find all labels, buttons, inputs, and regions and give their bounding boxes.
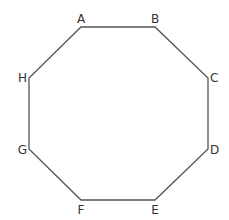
- vertex-label-e: E: [151, 203, 159, 217]
- octagon-diagram: A B C D E F G H: [0, 0, 229, 220]
- vertex-label-a: A: [77, 12, 86, 26]
- vertex-label-g: G: [18, 143, 27, 157]
- octagon-shape: [29, 27, 208, 200]
- vertex-label-d: D: [210, 143, 219, 157]
- vertex-label-h: H: [18, 71, 27, 85]
- vertex-label-f: F: [78, 203, 85, 217]
- vertex-label-c: C: [210, 71, 218, 85]
- vertex-label-b: B: [151, 12, 159, 26]
